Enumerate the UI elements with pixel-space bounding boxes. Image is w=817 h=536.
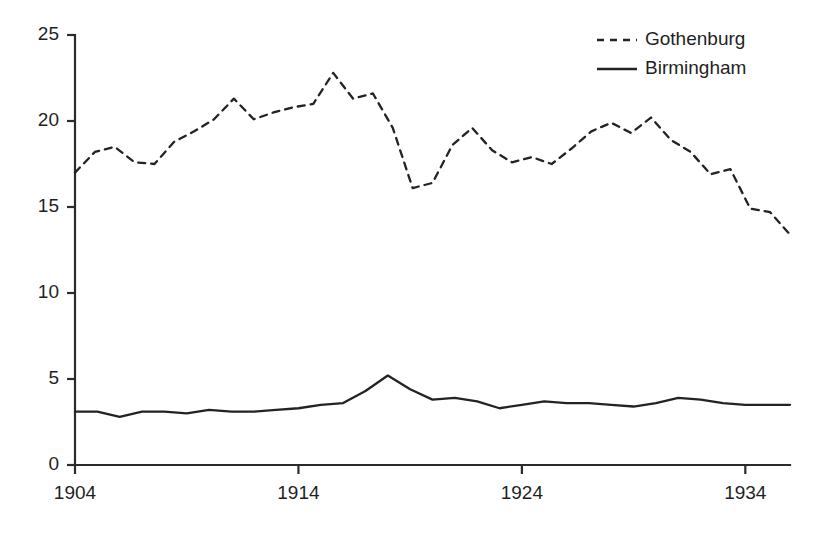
x-axis: 1904191419241934 (54, 465, 790, 503)
y-axis: 0510152025 (38, 23, 75, 474)
y-axis-tick-label: 5 (48, 367, 59, 388)
line-chart: 0510152025 1904191419241934 GothenburgBi… (0, 0, 817, 536)
y-axis-tick-label: 25 (38, 23, 59, 44)
y-axis-tick-label: 10 (38, 281, 59, 302)
series-container (75, 73, 790, 417)
x-axis-tick-label: 1934 (724, 482, 767, 503)
x-axis-tick-label: 1914 (277, 482, 320, 503)
x-axis-tick-label: 1904 (54, 482, 97, 503)
legend-label-gothenburg: Gothenburg (645, 28, 745, 49)
chart-canvas: 0510152025 1904191419241934 GothenburgBi… (0, 0, 817, 536)
y-axis-tick-label: 20 (38, 109, 59, 130)
series-line-gothenburg (75, 73, 790, 235)
series-line-birmingham (75, 376, 790, 417)
x-axis-tick-label: 1924 (501, 482, 544, 503)
y-axis-tick-label: 0 (48, 453, 59, 474)
chart-legend: GothenburgBirmingham (597, 28, 746, 78)
y-axis-tick-label: 15 (38, 195, 59, 216)
legend-label-birmingham: Birmingham (645, 57, 746, 78)
